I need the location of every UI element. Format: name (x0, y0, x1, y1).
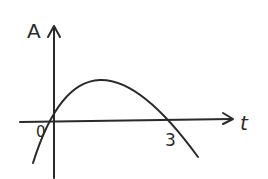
root-label: 3 (165, 130, 176, 150)
y-axis-label: A (27, 19, 41, 43)
x-axis-label: t (240, 111, 249, 135)
origin-label: 0 (36, 123, 46, 141)
parabola-graph: A t 0 3 (0, 0, 268, 179)
